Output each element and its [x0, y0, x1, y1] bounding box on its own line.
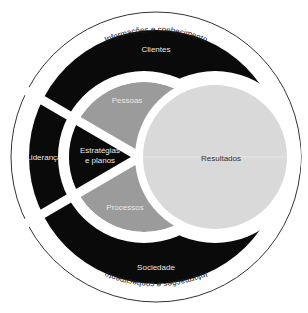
label-lideranca: Liderança — [26, 153, 62, 162]
label-clientes: Clientes — [142, 45, 171, 54]
label-estrategias: Estratégias — [80, 146, 120, 155]
label-resultados: Resultados — [201, 154, 241, 163]
label-sociedade: Sociedade — [137, 263, 175, 272]
label-pessoas: Pessoas — [112, 96, 143, 105]
management-model-diagram: Clientes Liderança Sociedade Pessoas Est… — [0, 0, 308, 313]
label-e-planos: e planos — [85, 156, 115, 165]
label-processos: Processos — [106, 203, 143, 212]
